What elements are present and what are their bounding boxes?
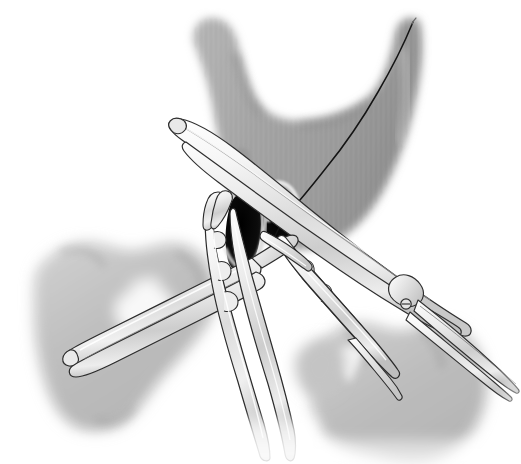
surgical-illustration-figure: Surgical anastomosis illustration Graysc… xyxy=(0,0,521,464)
illustration-canvas xyxy=(0,0,521,464)
